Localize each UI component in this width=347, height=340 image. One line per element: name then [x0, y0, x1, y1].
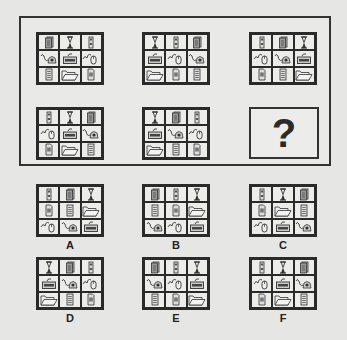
- stacked-papers-icon: [61, 188, 79, 201]
- grid-cell: [59, 142, 80, 158]
- option-a-grid[interactable]: [36, 184, 104, 237]
- grid-cell: [59, 202, 80, 218]
- folder-icon: [188, 293, 206, 306]
- hourglass-icon: [61, 111, 79, 124]
- option-b-grid[interactable]: [142, 184, 210, 237]
- stacked-papers-icon: [188, 36, 206, 49]
- grid-cell: [81, 67, 102, 83]
- lined-document-icon: [82, 143, 100, 156]
- mouse-icon: [253, 220, 271, 233]
- grid-cell: [187, 259, 208, 275]
- grid-cell: [38, 142, 59, 158]
- option-f-grid[interactable]: [249, 257, 317, 310]
- grid-cell: [38, 219, 59, 235]
- telephone-icon: [40, 52, 58, 65]
- grid-cell: [187, 142, 208, 158]
- grid-cell: [81, 125, 102, 141]
- grid-cell: [38, 109, 59, 125]
- computer-tower-icon: [40, 111, 58, 124]
- lined-document-icon: [295, 293, 313, 306]
- keyboard-icon: [82, 220, 100, 233]
- grid-cell: [272, 67, 293, 83]
- mouse-icon: [188, 127, 206, 140]
- grid-cell: [144, 275, 165, 291]
- grid-cell: [144, 142, 165, 158]
- stacked-papers-icon: [146, 188, 164, 201]
- grid-cell: [251, 67, 272, 83]
- page-document-icon: [167, 293, 185, 306]
- computer-tower-icon: [188, 111, 206, 124]
- grid-cell: [272, 219, 293, 235]
- stacked-papers-icon: [295, 188, 313, 201]
- computer-tower-icon: [253, 261, 271, 274]
- stacked-papers-icon: [295, 261, 313, 274]
- hourglass-icon: [295, 36, 313, 49]
- keyboard-icon: [274, 277, 292, 290]
- grid-cell: [81, 259, 102, 275]
- folder-icon: [274, 204, 292, 217]
- computer-tower-icon: [167, 261, 185, 274]
- keyboard-icon: [40, 277, 58, 290]
- page-document-icon: [253, 204, 271, 217]
- telephone-icon: [146, 277, 164, 290]
- grid-cell: [165, 292, 186, 308]
- folder-icon: [61, 68, 79, 81]
- folder-icon: [295, 68, 313, 81]
- grid-cell: [251, 202, 272, 218]
- question-mark: ?: [272, 113, 296, 153]
- mouse-icon: [167, 52, 185, 65]
- lined-document-icon: [295, 204, 313, 217]
- grid-cell: [81, 50, 102, 66]
- grid-cell: [294, 34, 315, 50]
- matrix-grid-2: [142, 32, 210, 85]
- matrix-grid-4: [36, 107, 104, 160]
- grid-cell: [187, 186, 208, 202]
- grid-cell: [294, 67, 315, 83]
- hourglass-icon: [188, 261, 206, 274]
- grid-cell: [38, 50, 59, 66]
- grid-cell: [81, 275, 102, 291]
- option-c-grid[interactable]: [249, 184, 317, 237]
- grid-cell: [165, 109, 186, 125]
- option-f-label[interactable]: F: [249, 312, 317, 324]
- telephone-icon: [295, 277, 313, 290]
- option-e-grid[interactable]: [142, 257, 210, 310]
- computer-tower-icon: [253, 36, 271, 49]
- folder-icon: [146, 68, 164, 81]
- option-a-label[interactable]: A: [36, 239, 104, 251]
- option-c-label[interactable]: C: [249, 239, 317, 251]
- computer-tower-icon: [253, 188, 271, 201]
- hourglass-icon: [82, 188, 100, 201]
- grid-cell: [81, 109, 102, 125]
- keyboard-icon: [61, 52, 79, 65]
- lined-document-icon: [274, 68, 292, 81]
- computer-tower-icon: [82, 36, 100, 49]
- option-e-label[interactable]: E: [142, 312, 210, 324]
- grid-cell: [165, 34, 186, 50]
- grid-cell: [59, 50, 80, 66]
- stacked-papers-icon: [61, 261, 79, 274]
- grid-cell: [59, 219, 80, 235]
- grid-cell: [165, 202, 186, 218]
- option-b-label[interactable]: B: [142, 239, 210, 251]
- page-document-icon: [167, 204, 185, 217]
- option-d-grid[interactable]: [36, 257, 104, 310]
- telephone-icon: [146, 220, 164, 233]
- telephone-icon: [61, 277, 79, 290]
- page-document-icon: [253, 68, 271, 81]
- grid-cell: [38, 275, 59, 291]
- page-document-icon: [167, 68, 185, 81]
- grid-cell: [81, 219, 102, 235]
- hourglass-icon: [188, 188, 206, 201]
- grid-cell: [38, 34, 59, 50]
- grid-cell: [165, 186, 186, 202]
- lined-document-icon: [61, 204, 79, 217]
- option-d-label[interactable]: D: [36, 312, 104, 324]
- grid-cell: [144, 109, 165, 125]
- hourglass-icon: [146, 36, 164, 49]
- grid-cell: [38, 186, 59, 202]
- grid-cell: [144, 34, 165, 50]
- grid-cell: [165, 125, 186, 141]
- keyboard-icon: [274, 220, 292, 233]
- grid-cell: [59, 67, 80, 83]
